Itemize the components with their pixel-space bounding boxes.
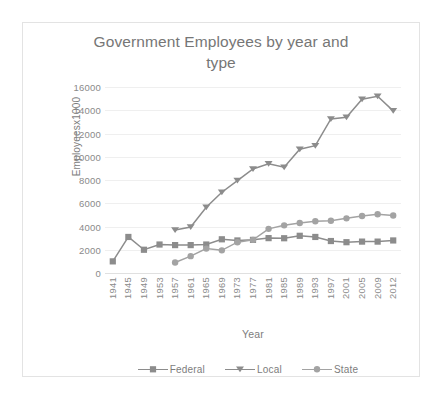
- data-point-state[interactable]: [250, 237, 256, 243]
- x-tick-label-1961: 1961: [186, 277, 196, 299]
- legend-swatch-square-icon: [138, 363, 168, 375]
- y-axis-tick-labels: 1600014000120001000080006000400020000: [53, 87, 101, 273]
- data-point-state[interactable]: [390, 212, 396, 218]
- x-tick-label-1997: 1997: [326, 277, 336, 299]
- data-point-state[interactable]: [359, 213, 365, 219]
- data-point-federal[interactable]: [281, 235, 287, 241]
- x-tick-label-1949: 1949: [139, 277, 149, 299]
- y-tick-label-10000: 10000: [74, 151, 101, 162]
- x-tick-label-1957: 1957: [170, 277, 180, 299]
- y-tick-label-2000: 2000: [79, 244, 101, 255]
- x-tick-label-1973: 1973: [232, 277, 242, 299]
- y-tick-label-6000: 6000: [79, 198, 101, 209]
- x-tick-label-1981: 1981: [264, 277, 274, 299]
- data-point-federal[interactable]: [172, 242, 178, 248]
- x-tick-label-1965: 1965: [201, 277, 211, 299]
- y-tick-label-8000: 8000: [79, 175, 101, 186]
- data-point-federal[interactable]: [156, 241, 162, 247]
- data-point-federal[interactable]: [219, 236, 225, 242]
- data-point-federal[interactable]: [141, 247, 147, 253]
- x-tick-label-2009: 2009: [373, 277, 383, 299]
- x-axis-title: Year: [105, 328, 401, 340]
- data-point-federal[interactable]: [125, 234, 131, 240]
- y-tick-label-4000: 4000: [79, 221, 101, 232]
- legend-item-state[interactable]: State: [302, 363, 358, 375]
- x-tick-label-2012: 2012: [388, 277, 398, 299]
- data-point-federal[interactable]: [110, 258, 116, 264]
- data-point-federal[interactable]: [390, 237, 396, 243]
- data-point-state[interactable]: [374, 211, 380, 217]
- y-tick-label-12000: 12000: [74, 128, 101, 139]
- y-tick-label-14000: 14000: [74, 105, 101, 116]
- data-point-state[interactable]: [297, 220, 303, 226]
- data-point-federal[interactable]: [297, 233, 303, 239]
- data-point-federal[interactable]: [328, 238, 334, 244]
- data-point-state[interactable]: [234, 239, 240, 245]
- data-point-federal[interactable]: [375, 239, 381, 245]
- legend-label: Local: [256, 364, 282, 375]
- data-point-state[interactable]: [172, 259, 178, 265]
- legend-item-federal[interactable]: Federal: [138, 363, 205, 375]
- data-point-state[interactable]: [187, 253, 193, 259]
- y-tick-label-0: 0: [96, 268, 101, 279]
- y-tick-label-16000: 16000: [74, 82, 101, 93]
- x-tick-label-1993: 1993: [310, 277, 320, 299]
- x-tick-label-1985: 1985: [279, 277, 289, 299]
- data-point-state[interactable]: [312, 218, 318, 224]
- data-point-state[interactable]: [328, 217, 334, 223]
- chart-legend: FederalLocalState: [83, 363, 413, 375]
- data-point-state[interactable]: [281, 222, 287, 228]
- x-tick-label-2005: 2005: [357, 277, 367, 299]
- data-point-federal[interactable]: [343, 239, 349, 245]
- x-tick-label-1969: 1969: [217, 277, 227, 299]
- data-point-state[interactable]: [343, 215, 349, 221]
- series-lines: [105, 87, 401, 273]
- x-axis-tick-labels: 1941194519491953195719611965196919731977…: [105, 277, 401, 319]
- chart-title-line-2: type: [53, 52, 389, 73]
- data-point-state[interactable]: [203, 245, 209, 251]
- series-line-local: [175, 96, 393, 230]
- x-tick-label-1989: 1989: [295, 277, 305, 299]
- x-tick-label-1977: 1977: [248, 277, 258, 299]
- x-tick-label-2001: 2001: [341, 277, 351, 299]
- data-point-state[interactable]: [265, 226, 271, 232]
- chart-container: Government Employees by year and type Em…: [22, 22, 420, 377]
- legend-item-local[interactable]: Local: [225, 363, 282, 375]
- data-point-state[interactable]: [219, 247, 225, 253]
- data-point-federal[interactable]: [265, 235, 271, 241]
- data-point-local[interactable]: [389, 108, 397, 114]
- data-point-local[interactable]: [202, 205, 210, 211]
- chart-title-line-1: Government Employees by year and: [53, 31, 389, 52]
- data-point-federal[interactable]: [359, 239, 365, 245]
- legend-label: Federal: [169, 364, 205, 375]
- x-tick-label-1953: 1953: [155, 277, 165, 299]
- x-tick-label-1941: 1941: [108, 277, 118, 299]
- legend-label: State: [333, 364, 358, 375]
- chart-title: Government Employees by year and type: [53, 31, 389, 73]
- plot-area: [105, 87, 401, 273]
- legend-swatch-triangle-icon: [225, 363, 255, 375]
- legend-swatch-circle-icon: [302, 363, 332, 375]
- data-point-federal[interactable]: [312, 234, 318, 240]
- x-tick-label-1945: 1945: [123, 277, 133, 299]
- data-point-federal[interactable]: [188, 242, 194, 248]
- gridline-0: [105, 273, 401, 274]
